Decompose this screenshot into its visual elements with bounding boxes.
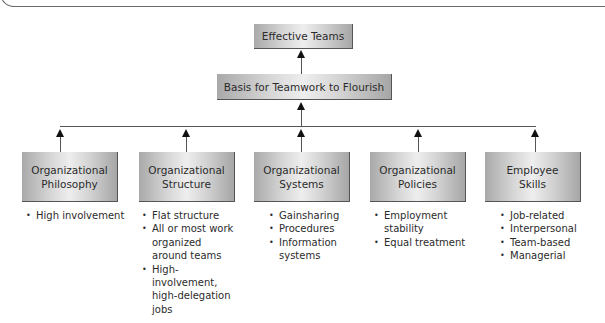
bullet-item: Flat structure [142,209,238,222]
connector-factor-4 [418,135,419,152]
bullet-item: Equal treatment [374,236,474,249]
bullet-item: Interpersonal [500,222,600,235]
effective-teams-box: Effective Teams [254,24,353,49]
arrow-up-icon [56,129,64,137]
bullet-item: High involvement [26,209,126,222]
basis-box: Basis for Teamwork to Flourish [217,74,392,100]
factor-title-line2: Skills [506,177,558,191]
factor-box-policies: Organizational Policies [370,152,466,202]
factor-box-skills: Employee Skills [485,152,581,202]
factor-title-line1: Organizational [379,163,455,177]
connector-factor-1 [60,135,61,152]
factor-title-line1: Organizational [148,163,224,177]
arrow-up-icon [297,129,305,137]
arrow-up-icon [297,102,305,110]
arrow-up-icon [414,129,422,137]
bullet-item: Procedures [269,222,359,235]
bullets-structure: Flat structure All or most work organize… [142,209,238,316]
connector-factor-2 [186,135,187,152]
effective-teams-label: Effective Teams [262,29,344,43]
frame-top-line [12,6,605,7]
bullets-policies: Employment stability Equal treatment [374,209,474,249]
factor-title-line1: Organizational [263,163,339,177]
arrow-up-icon [531,129,539,137]
connector-middle-to-top [301,56,302,74]
bullets-skills: Job-related Interpersonal Team-based Man… [500,209,600,263]
bullet-item: High-involvement, high-delegation jobs [142,263,238,317]
factor-title-line2: Systems [263,177,339,191]
basis-label: Basis for Teamwork to Flourish [224,80,384,94]
bullet-item: Team-based [500,236,600,249]
factor-title-line2: Policies [379,177,455,191]
bullets-systems: Gainsharing Procedures Information syste… [269,209,359,263]
factor-title-line1: Organizational [31,163,107,177]
bullets-philosophy: High involvement [26,209,126,222]
factor-box-philosophy: Organizational Philosophy [22,152,118,202]
bullet-item: Information systems [269,236,359,263]
factor-title-line1: Employee [506,163,558,177]
connector-bus [60,126,536,127]
factor-box-systems: Organizational Systems [254,152,350,202]
bullet-item: Job-related [500,209,600,222]
factor-title-line2: Structure [148,177,224,191]
factor-box-structure: Organizational Structure [139,152,235,202]
factor-title-line2: Philosophy [31,177,107,191]
connector-factor-5 [535,135,536,152]
bullet-item: Gainsharing [269,209,359,222]
arrow-up-icon [297,50,305,58]
bullet-item: Managerial [500,249,600,262]
arrow-up-icon [182,129,190,137]
connector-factor-3 [301,135,302,152]
connector-bus-to-middle [301,108,302,126]
bullet-item: Employment stability [374,209,474,236]
bullet-item: All or most work organized around teams [142,222,238,262]
